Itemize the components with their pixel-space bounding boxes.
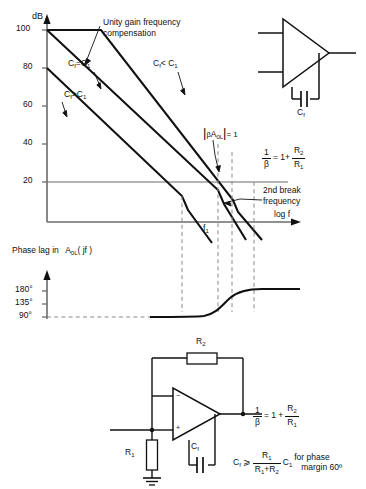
cond-num-sub: 1	[268, 455, 271, 461]
cond-den-r2-sub: 2	[275, 469, 278, 475]
cond-num: R1	[253, 450, 281, 464]
beta-inv-fraction: 1 β	[262, 147, 271, 169]
r2-num: R2	[292, 145, 305, 159]
cond-text-block: for phase margin 60º	[294, 453, 342, 473]
gain-num: 1	[253, 405, 262, 417]
cf-lt-sub2: 1	[174, 63, 177, 69]
leader-loop-gain	[213, 140, 218, 168]
opamp-triangle-top	[283, 19, 329, 87]
cond-ge-symbol: ⩾	[243, 458, 251, 468]
bode-x-tick-f1: f1	[203, 224, 209, 235]
beta-inv-row: 1 β = 1+ R2 R1	[262, 145, 305, 171]
gain-row: 1 β = 1 + R2 R1	[253, 403, 299, 429]
leader-unity-gain	[86, 26, 100, 62]
opamp-minus-label: −	[176, 392, 180, 400]
r1-sub: 1	[300, 164, 303, 170]
equation-beta-inverse-plot: 1 β = 1+ R2 R1	[262, 145, 305, 171]
cond-fraction: R1 R1+R2	[253, 450, 281, 476]
resistor-r1	[147, 440, 158, 470]
phase-caption-arg: ( jf )	[78, 245, 93, 255]
r1-den: R1	[292, 159, 305, 172]
bode-y-tick-60: 60	[23, 100, 32, 110]
label-cf-greater-c1: Cf>C1	[64, 90, 86, 101]
annotation-unity-gain-line1: Unity gain frequency	[103, 18, 181, 28]
gain-fraction: 1 β	[253, 405, 262, 427]
cf-condition-row: Cf ⩾ R1 R1+R2 C1 for phase margin 60º	[233, 450, 342, 476]
phase-curve	[150, 289, 300, 317]
gain-r1: R1	[285, 417, 298, 430]
phase-caption-a-sub: 0L	[71, 250, 78, 256]
bode-y-tick-80: 80	[23, 62, 32, 72]
cond-c1: C1	[283, 458, 292, 469]
cond-cf-sub: f	[239, 462, 241, 468]
circuit-cf-label: Cf	[191, 442, 199, 453]
opamp-symbol-top	[258, 19, 356, 107]
label-cf-equal-c1: Cf=C1	[68, 59, 90, 70]
gain-r2: R2	[285, 403, 298, 417]
r2-circuit-sub: 2	[202, 341, 205, 347]
cond-c1-sub: 1	[289, 462, 292, 468]
bode-y-axis-label: dB	[32, 11, 43, 21]
gain-r1-sub: 1	[293, 422, 296, 428]
beta-inv-equals: = 1+	[273, 153, 290, 163]
figure-root: dB 100 80 60 40 20 Unity gain frequency …	[0, 0, 366, 489]
phase-y-tick-135: 135°	[15, 298, 33, 308]
phase-caption-prefix: Phase lag in	[12, 245, 59, 255]
phase-axes	[42, 270, 150, 319]
circuit-r1-label: R1	[125, 448, 134, 459]
gain-r2-r1-fraction: R2 R1	[285, 403, 298, 429]
cf-eq-rel: =C	[76, 58, 87, 68]
cf-gt-sub2: 1	[83, 94, 86, 100]
beta-inv-num: 1	[262, 147, 271, 159]
phase-y-tick-180: 180°	[15, 285, 33, 295]
opamp-plus-label: +	[176, 424, 180, 432]
cf-eq-sub2: 1	[87, 63, 90, 69]
bode-leaders	[62, 26, 262, 206]
cf-top-sub: f	[303, 112, 305, 118]
annotation-unity-gain-line2: compensation	[103, 29, 156, 39]
bode-x-axis-label: log f	[274, 210, 290, 220]
annotation-second-break-line2: frequency	[263, 197, 300, 207]
r1-circuit-sub: 1	[131, 452, 134, 458]
r2-sub: 2	[300, 150, 303, 156]
bode-y-tick-100: 100	[16, 24, 30, 34]
beta-inv-den: β	[262, 159, 271, 170]
gain-den: β	[253, 417, 262, 428]
phase-caption: Phase lag in A0L( jf )	[12, 246, 92, 257]
circuit-r2-label: R2	[196, 337, 205, 348]
label-loop-gain-unity: |βA0L|= 1	[203, 126, 238, 141]
cond-cf: Cf	[233, 458, 241, 469]
label-cf-less-c1: Cf< C1	[153, 59, 178, 70]
equation-gain: 1 β = 1 + R2 R1	[253, 403, 299, 429]
opamp-top-cap-label: Cf	[297, 108, 305, 119]
cf-lt-rel: < C	[161, 58, 174, 68]
gain-r2-sub: 2	[293, 408, 296, 414]
f-sub: 1	[205, 228, 208, 234]
r2-over-r1-fraction: R2 R1	[292, 145, 305, 171]
cf-gt-rel: >C	[72, 89, 83, 99]
bode-y-tick-40: 40	[23, 138, 32, 148]
cond-text-line2: margin 60º	[301, 463, 342, 473]
gain-equals: = 1 +	[264, 411, 283, 421]
annotation-second-break-line1: 2nd break	[263, 186, 301, 196]
resistor-r2	[187, 353, 217, 364]
cond-den: R1+R2	[253, 464, 281, 477]
phase-y-tick-90: 90°	[19, 311, 32, 321]
loop-gain-equals: = 1	[226, 130, 237, 139]
bode-y-tick-20: 20	[23, 176, 32, 186]
equation-cf-condition: Cf ⩾ R1 R1+R2 C1 for phase margin 60º	[233, 450, 342, 476]
cf-circuit-sub: f	[197, 446, 199, 452]
